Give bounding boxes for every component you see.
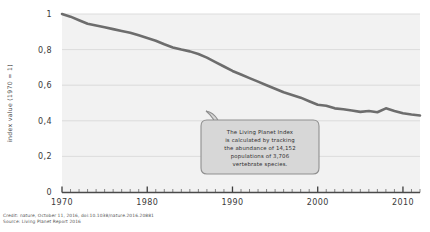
y-axis-title: index value (1970 = 1): [6, 64, 13, 142]
y-tick-label: 0,8: [38, 46, 52, 55]
x-tick-label: 2010: [392, 198, 414, 207]
x-tick-label: 1980: [136, 198, 158, 207]
y-axis-title-text: index value (1970 = 1): [6, 64, 13, 142]
y-tick-label: 0,4: [38, 117, 52, 126]
x-tick-label: 1990: [221, 198, 243, 207]
y-tick-label: 0,6: [38, 81, 52, 90]
annotation-callout: The Living Planet Indexis calculated by …: [201, 111, 319, 174]
credit-line-2: Source: Living Planet Report 2016: [3, 219, 81, 224]
callout-text-line: populations of 3,706: [231, 153, 290, 160]
callout-text-line: is calculated by tracking: [225, 137, 295, 144]
living-planet-index-chart: 19701980199020002010 00,20,40,60,81 inde…: [0, 0, 430, 232]
y-tick-label: 1: [47, 10, 53, 19]
credit-line-1: Credit: nature, October 11, 2016, doi:10…: [3, 213, 154, 218]
callout-text-line: The Living Planet Index: [226, 129, 294, 136]
y-tick-label: 0: [47, 188, 53, 197]
callout-text-line: vertebrate species.: [233, 161, 288, 168]
x-tick-label: 1970: [51, 198, 73, 207]
x-tick-label: 2000: [307, 198, 329, 207]
y-tick-label: 0,2: [38, 152, 52, 161]
callout-text-line: the abundance of 14,152: [224, 145, 295, 151]
